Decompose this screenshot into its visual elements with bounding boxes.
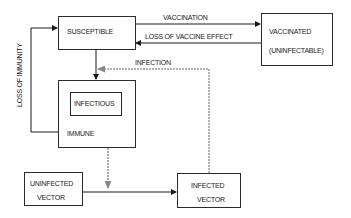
loss-of-immunity-label: LOSS OF IMMUNITY (16, 43, 23, 107)
uninfected-vector-label: VECTOR (37, 194, 65, 201)
node-susceptible: SUSCEPTIBLE (58, 16, 136, 50)
infected-vector-label: VECTOR (197, 196, 225, 203)
uninfected-label: UNINFECTED (30, 180, 73, 187)
node-infectious: INFECTIOUS (70, 92, 122, 116)
infectious-label: INFECTIOUS (74, 100, 114, 107)
node-vaccinated: VACCINATED (UNINFECTABLE) (261, 13, 333, 66)
immune-label: IMMUNE (67, 130, 94, 137)
loss-of-vaccine-effect-label: LOSS OF VACCINE EFFECT (145, 33, 233, 40)
vaccination-label: VACCINATION (163, 14, 208, 21)
node-infected-vector: INFECTED VECTOR (177, 173, 241, 208)
infected-label: INFECTED (191, 182, 224, 189)
susceptible-label: SUSCEPTIBLE (67, 28, 113, 35)
vaccinated-label: VACCINATED (269, 28, 311, 35)
node-uninfected-vector: UNINFECTED VECTOR (24, 172, 83, 206)
loss-of-immunity-arrow (31, 28, 58, 132)
uninfectable-label: (UNINFECTABLE) (269, 47, 324, 54)
infection-label: INFECTION (135, 59, 171, 66)
